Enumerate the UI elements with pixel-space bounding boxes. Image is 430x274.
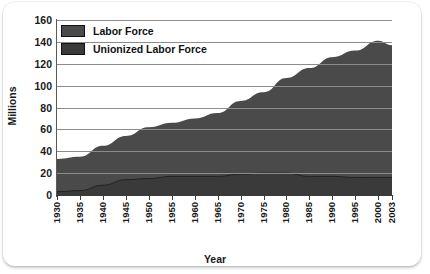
x-tick-label-1970: 1970: [236, 202, 245, 223]
x-tick-2003: [392, 195, 393, 200]
gridline-80: [57, 108, 392, 109]
x-tick-label-1935: 1935: [75, 202, 84, 223]
gridline-120: [57, 64, 392, 65]
x-tick-1955: [172, 195, 173, 200]
y-tick-label-160: 160: [4, 15, 52, 25]
x-tick-label-2003: 2003: [387, 202, 396, 223]
y-tick-label-140: 140: [4, 37, 52, 47]
x-tick-1935: [80, 195, 81, 200]
x-tick-label-1965: 1965: [213, 202, 222, 223]
x-tick-1980: [286, 195, 287, 200]
y-tick-label-60: 60: [4, 124, 52, 134]
y-tick-label-100: 100: [4, 81, 52, 91]
gridline-20: [57, 173, 392, 174]
x-tick-1950: [149, 195, 150, 200]
x-tick-1990: [332, 195, 333, 200]
x-tick-label-1960: 1960: [190, 202, 199, 223]
x-tick-1930: [57, 195, 58, 200]
legend-swatch-unionized-labor-force: [61, 43, 85, 55]
x-tick-1985: [309, 195, 310, 200]
x-tick-label-1955: 1955: [167, 202, 176, 223]
x-tick-1940: [103, 195, 104, 200]
x-tick-1945: [126, 195, 127, 200]
y-axis-line: [56, 19, 57, 197]
x-tick-1975: [264, 195, 265, 200]
legend-item-labor-force: Labor Force: [61, 24, 207, 38]
x-tick-label-1950: 1950: [144, 202, 153, 223]
y-tick-label-80: 80: [4, 103, 52, 113]
y-tick-label-40: 40: [4, 146, 52, 156]
gridline-100: [57, 86, 392, 87]
legend-swatch-labor-force: [61, 25, 85, 37]
x-tick-label-1985: 1985: [304, 202, 313, 223]
y-tick-label-0: 0: [4, 190, 52, 200]
legend-label-labor-force: Labor Force: [93, 26, 154, 37]
y-tick-label-120: 120: [4, 59, 52, 69]
x-tick-1965: [218, 195, 219, 200]
legend-item-unionized-labor-force: Unionized Labor Force: [61, 42, 207, 56]
legend-label-unionized-labor-force: Unionized Labor Force: [93, 44, 207, 55]
x-tick-2000: [378, 195, 379, 200]
y-axis-tick-labels: 020406080100120140160: [0, 0, 52, 274]
x-tick-label-1995: 1995: [350, 202, 359, 223]
y-tick-label-20: 20: [4, 168, 52, 178]
x-tick-label-1975: 1975: [259, 202, 268, 223]
gridline-60: [57, 129, 392, 130]
x-tick-label-1980: 1980: [281, 202, 290, 223]
x-tick-1970: [241, 195, 242, 200]
gridline-160: [57, 20, 392, 21]
gridline-40: [57, 151, 392, 152]
x-tick-label-1945: 1945: [121, 202, 130, 223]
chart-legend: Labor Force Unionized Labor Force: [61, 24, 207, 60]
x-tick-label-1930: 1930: [52, 202, 61, 223]
labor-force-area-chart: Millions 020406080100120140160 193019351…: [0, 0, 430, 274]
x-axis-title: Year: [0, 253, 430, 265]
x-tick-1995: [355, 195, 356, 200]
x-tick-label-1940: 1940: [98, 202, 107, 223]
x-tick-label-2000: 2000: [373, 202, 382, 223]
x-axis-line: [56, 195, 393, 196]
x-tick-label-1990: 1990: [327, 202, 336, 223]
x-tick-1960: [195, 195, 196, 200]
